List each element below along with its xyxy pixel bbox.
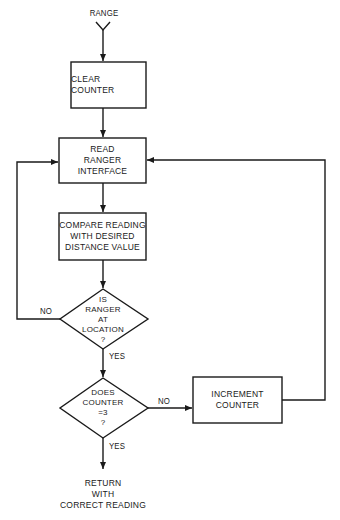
- node-text: AT: [98, 315, 108, 325]
- node-text: RANGER: [85, 305, 120, 315]
- node-text: READ: [90, 144, 114, 155]
- node-text: ?: [101, 418, 106, 428]
- node-compare-reading: COMPARE READING WITH DESIRED DISTANCE VA…: [59, 213, 146, 260]
- start-connector-icon: [96, 22, 110, 30]
- node-increment-counter: INCREMENT COUNTER: [193, 377, 282, 423]
- edge-label-no-location: NO: [39, 306, 54, 317]
- node-text: WITH: [92, 489, 115, 500]
- edge-increment-loop-read: [147, 160, 325, 400]
- edge-label-yes-location: YES: [108, 351, 126, 362]
- node-text: COMPARE READING: [59, 220, 145, 231]
- node-text: ?: [101, 335, 106, 345]
- node-does-counter-eq-3: DOES COUNTER =3 ?: [73, 384, 133, 432]
- edge-no-loop-read: [17, 162, 60, 319]
- edge-label-no-counter: NO: [157, 396, 172, 407]
- node-text: INCREMENT: [211, 389, 263, 400]
- node-text: DOES: [91, 388, 114, 398]
- node-text: INTERFACE: [78, 166, 128, 177]
- node-clear-counter: CLEAR COUNTER: [71, 62, 146, 108]
- node-text: =3: [98, 408, 108, 418]
- node-text: LOCATION: [82, 325, 124, 335]
- node-is-ranger-at-location: IS RANGER AT LOCATION ?: [73, 292, 133, 347]
- node-text: COUNTER: [83, 398, 124, 408]
- start-label: RANGE: [87, 8, 120, 19]
- node-text: IS: [99, 295, 107, 305]
- edge-label-yes-counter: YES: [108, 441, 126, 452]
- node-text: RANGER: [84, 155, 122, 166]
- flowchart-canvas: [0, 0, 340, 520]
- node-text: CLEAR COUNTER: [71, 74, 146, 96]
- node-text: WITH DESIRED: [70, 231, 134, 242]
- node-return-correct-reading: RETURN WITH CORRECT READING: [48, 476, 158, 512]
- node-text: DISTANCE VALUE: [65, 242, 140, 253]
- node-text: RETURN: [85, 478, 122, 489]
- node-text: COUNTER: [216, 400, 259, 411]
- node-text: CORRECT READING: [60, 500, 146, 511]
- node-read-ranger-interface: READ RANGER INTERFACE: [59, 138, 146, 183]
